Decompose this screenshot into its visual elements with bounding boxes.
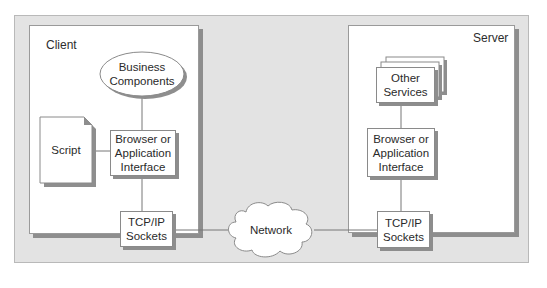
script-label: Script [51, 143, 80, 157]
business-components-node: Business Components [100, 52, 184, 96]
client-browser-interface-label: Browser or Application Interface [115, 132, 171, 174]
client-tcpip-sockets-node: TCP/IP Sockets [120, 211, 173, 247]
other-services-label: Other Services [383, 71, 427, 99]
client-tcpip-sockets-label: TCP/IP Sockets [126, 215, 167, 243]
network-label: Network [250, 223, 292, 237]
server-browser-interface-node: Browser or Application Interface [367, 128, 435, 177]
server-tcpip-sockets-label: TCP/IP Sockets [383, 216, 424, 244]
network-node: Network [236, 220, 306, 240]
server-tcpip-sockets-node: TCP/IP Sockets [377, 211, 430, 248]
script-node: Script [40, 117, 92, 183]
server-browser-interface-label: Browser or Application Interface [373, 132, 429, 174]
client-browser-interface-node: Browser or Application Interface [110, 130, 176, 176]
business-components-label: Business Components [109, 60, 174, 88]
other-services-node: Other Services [376, 67, 435, 103]
